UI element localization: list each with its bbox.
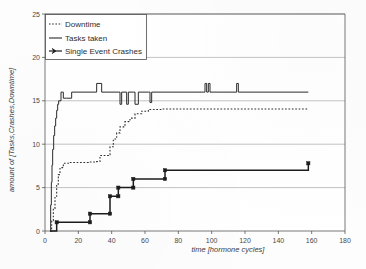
y-axis-title: amount of [Tasks,Crashes,Downtime] (7, 67, 16, 192)
x-tick-label-180: 180 (339, 237, 351, 244)
y-tick-label-10: 10 (32, 141, 40, 148)
y-tick-label-25: 25 (32, 11, 40, 18)
data-point-marker (163, 177, 166, 180)
y-tick-label-0: 0 (36, 228, 40, 235)
data-point-marker (117, 186, 120, 189)
x-tick-label-40: 40 (108, 237, 116, 244)
data-point-marker (88, 221, 91, 224)
x-tick-label-80: 80 (174, 237, 182, 244)
chart-figure: 020406080100120140160180 0510152025 time… (0, 0, 366, 269)
x-tick-label-100: 100 (206, 237, 218, 244)
data-point-marker (132, 177, 135, 180)
x-tick-label-120: 120 (239, 237, 251, 244)
y-tick-label-20: 20 (32, 54, 40, 61)
data-point-marker (88, 212, 91, 215)
chart-legend: Downtime Tasks taken Single Event Crashe… (46, 15, 147, 60)
data-point-marker (307, 162, 310, 165)
data-point-marker (132, 186, 135, 189)
y-axis-ticks: 0510152025 (32, 11, 45, 235)
legend-label-tasks-taken: Tasks taken (65, 34, 107, 43)
legend-label-single-event-crashes: Single Event Crashes (65, 47, 142, 56)
x-axis-ticks: 020406080100120140160180 (43, 231, 351, 244)
x-tick-label-160: 160 (306, 237, 318, 244)
x-tick-label-20: 20 (74, 237, 82, 244)
y-tick-label-15: 15 (32, 97, 40, 104)
chart-canvas: 020406080100120140160180 0510152025 time… (0, 0, 366, 269)
x-tick-label-60: 60 (141, 237, 149, 244)
x-tick-label-0: 0 (43, 237, 47, 244)
x-axis-title: time [hormone cycles] (192, 245, 266, 254)
data-point-marker (163, 169, 166, 172)
x-tick-label-140: 140 (272, 237, 284, 244)
data-point-marker (108, 212, 111, 215)
data-point-marker (55, 221, 58, 224)
data-point-marker (117, 195, 120, 198)
y-tick-label-5: 5 (36, 184, 40, 191)
legend-label-downtime: Downtime (65, 20, 101, 29)
data-point-marker (108, 195, 111, 198)
